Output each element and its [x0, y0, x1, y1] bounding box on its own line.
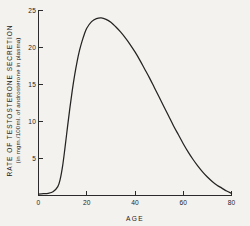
x-tick-label: 20 — [83, 199, 91, 206]
x-tick-label: 40 — [131, 199, 139, 206]
y-tick-label: 15 — [28, 81, 36, 88]
x-tick-group: 020406080 — [37, 191, 236, 206]
chart-figure: 510152025 020406080 AGE RATE OF TESTOSTE… — [0, 0, 250, 226]
x-tick-label: 0 — [37, 199, 41, 206]
y-tick-label: 25 — [28, 7, 36, 14]
y-tick-label: 20 — [28, 44, 36, 51]
y-tick-label: 10 — [28, 118, 36, 125]
x-tick-label: 60 — [179, 199, 187, 206]
chart-plot-area: 510152025 020406080 AGE — [0, 0, 250, 226]
chart-axes — [39, 10, 233, 196]
y-tick-group: 510152025 — [28, 7, 43, 162]
x-axis-title: AGE — [126, 215, 144, 222]
y-tick-label: 5 — [32, 155, 36, 162]
data-curve-testosterone — [39, 18, 232, 194]
x-tick-label: 80 — [228, 199, 236, 206]
